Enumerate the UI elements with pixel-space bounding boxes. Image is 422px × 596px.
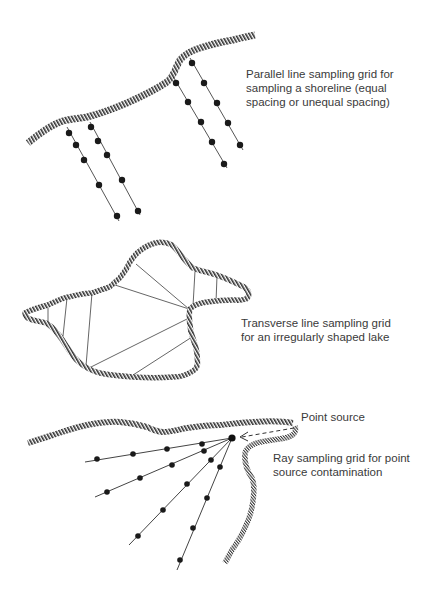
caption-line: Ray sampling grid for point xyxy=(273,451,410,465)
shoreline-band xyxy=(28,35,255,143)
sampling-line xyxy=(173,78,227,168)
caption-line: Parallel line sampling grid for xyxy=(246,67,394,81)
sampling-line xyxy=(88,122,141,215)
ray-grid-panel xyxy=(28,421,296,570)
parallel-grid-caption: Parallel line sampling grid for sampling… xyxy=(246,67,394,109)
caption-line: sampling a shoreline (equal xyxy=(246,81,394,95)
lake-outline xyxy=(25,242,249,378)
point-source-label: Point source xyxy=(301,410,365,424)
upper-shoreline xyxy=(28,421,293,443)
sampling-line xyxy=(189,58,243,150)
caption-line: source contamination xyxy=(273,465,410,479)
sampling-line xyxy=(66,127,120,221)
transverse-grid-panel xyxy=(25,242,249,378)
right-shoreline xyxy=(225,426,296,563)
caption-line: Transverse line sampling grid xyxy=(241,316,391,330)
point-source-marker xyxy=(228,434,235,441)
ray-grid-caption: Ray sampling grid for point source conta… xyxy=(273,451,410,479)
caption-line: for an irregularly shaped lake xyxy=(241,330,391,344)
transverse-grid-caption: Transverse line sampling grid for an irr… xyxy=(241,316,391,344)
caption-line: spacing or unequal spacing) xyxy=(246,95,394,109)
parallel-grid-panel xyxy=(28,35,255,221)
ray-line xyxy=(129,438,232,545)
